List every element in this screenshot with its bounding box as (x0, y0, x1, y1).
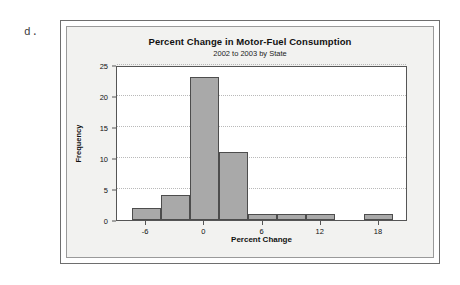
y-tick-label: 25 (100, 62, 108, 71)
x-tick-mark (203, 221, 204, 225)
chart-title: Percent Change in Motor-Fuel Consumption (67, 36, 433, 47)
y-tick-label: 10 (100, 155, 108, 164)
figure-label: d. (24, 26, 39, 38)
histogram-bar (248, 214, 277, 220)
y-axis-tick-group: 0510152025 (67, 66, 116, 221)
figure-inner-frame: Percent Change in Motor-Fuel Consumption… (66, 26, 434, 258)
figure-outer-frame: Percent Change in Motor-Fuel Consumption… (60, 20, 440, 264)
x-tick-mark (145, 221, 146, 225)
gridline (117, 64, 406, 65)
histogram-bars (117, 67, 406, 220)
x-tick-mark (320, 221, 321, 225)
histogram-bar (161, 195, 190, 220)
histogram-bar (132, 208, 161, 220)
histogram-bar (190, 77, 219, 220)
x-tick-mark (378, 221, 379, 225)
y-tick-label: 5 (104, 186, 108, 195)
chart-subtitle: 2002 to 2003 by State (67, 49, 433, 58)
histogram-bar (277, 214, 306, 220)
y-tick-label: 20 (100, 93, 108, 102)
histogram-bar (219, 152, 248, 220)
histogram-bar (364, 214, 393, 220)
histogram-chart: Percent Change in Motor-Fuel Consumption… (67, 27, 433, 257)
y-tick-label: 0 (104, 217, 108, 226)
y-tick-label: 15 (100, 124, 108, 133)
histogram-bar (306, 214, 335, 220)
plot-area (116, 66, 407, 221)
x-tick-mark (262, 221, 263, 225)
x-axis-title: Percent Change (116, 235, 407, 244)
